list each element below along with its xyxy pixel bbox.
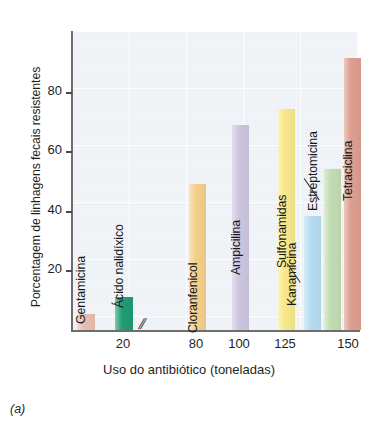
bar-label-ampicilina: Ampicilina (229, 219, 243, 276)
bar-label-kanamicina: Kanamicina (285, 243, 299, 306)
bar-label-tetraciclina: Tetraciclina (341, 140, 355, 202)
panel-caption: (a) (10, 402, 25, 416)
bar-label-gentamicina: Gentamicina (74, 256, 88, 324)
bar-label-acido-nalidixico: Ácido nalidíxico (112, 224, 126, 308)
x-axis-title: Uso do antibiótico (toneladas) (0, 362, 378, 377)
figure-panel-a: Porcentagem de linhagens fecais resisten… (0, 0, 378, 428)
bar-label-cloranfenicol: Cloranfenicol (186, 262, 200, 334)
